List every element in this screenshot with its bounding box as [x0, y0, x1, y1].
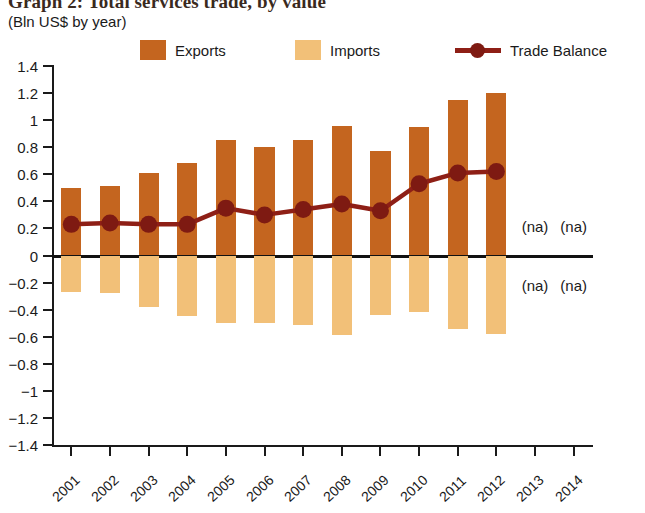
x-tick — [573, 445, 575, 456]
x-tick-label-2010: 2010 — [397, 472, 431, 505]
y-tick-label: 0.2 — [17, 220, 38, 237]
y-tick-label: 1 — [30, 112, 38, 129]
x-tick — [379, 445, 381, 456]
x-tick-label-2009: 2009 — [358, 472, 392, 505]
y-tick-label: −0.8 — [8, 355, 38, 372]
legend-label-imports: Imports — [330, 42, 380, 59]
na-label-2014-above-axis: (na) — [560, 218, 587, 235]
x-tick-label-2014: 2014 — [552, 472, 586, 505]
balance-point-2006 — [256, 206, 273, 223]
y-tick-label: 0 — [30, 247, 38, 264]
balance-point-2008 — [333, 196, 350, 213]
x-tick — [495, 445, 497, 456]
balance-point-2005 — [217, 200, 234, 217]
x-tick — [225, 445, 227, 456]
x-tick — [186, 445, 188, 456]
legend-swatch-imports — [295, 40, 321, 60]
x-tick — [70, 445, 72, 456]
x-tick-label-2012: 2012 — [474, 472, 508, 505]
balance-point-2004 — [179, 216, 196, 233]
x-tick — [109, 445, 111, 456]
y-tick-label: −0.6 — [8, 328, 38, 345]
legend-item-balance[interactable]: Trade Balance — [455, 38, 607, 62]
x-tick-label-2002: 2002 — [88, 472, 122, 505]
na-label-2013-above-axis: (na) — [522, 218, 549, 235]
legend-line-marker-icon — [455, 40, 501, 60]
legend-label-balance: Trade Balance — [510, 42, 607, 59]
balance-point-2007 — [295, 201, 312, 218]
x-tick-label-2001: 2001 — [49, 472, 83, 505]
y-tick-label: −1.2 — [8, 409, 38, 426]
x-tick-label-2007: 2007 — [281, 472, 315, 505]
balance-point-2002 — [101, 215, 118, 232]
balance-point-2003 — [140, 216, 157, 233]
y-tick-label: 0.6 — [17, 166, 38, 183]
balance-point-2009 — [372, 202, 389, 219]
x-tick-label-2013: 2013 — [513, 472, 547, 505]
chart-legend: ExportsImportsTrade Balance — [0, 38, 645, 62]
y-tick-label: 0.8 — [17, 139, 38, 156]
x-tick — [264, 445, 266, 456]
legend-label-exports: Exports — [175, 42, 226, 59]
plot-area: (na)(na)(na)(na) — [52, 66, 593, 445]
x-tick-label-2008: 2008 — [320, 472, 354, 505]
y-tick-label: 1.2 — [17, 85, 38, 102]
balance-point-2012 — [488, 163, 505, 180]
x-tick-label-2011: 2011 — [436, 472, 469, 504]
x-tick — [418, 445, 420, 456]
balance-point-2001 — [63, 216, 80, 233]
x-tick — [534, 445, 536, 456]
x-tick-label-2005: 2005 — [204, 472, 238, 505]
y-tick-label: −1 — [21, 382, 38, 399]
y-tick-label: −1.4 — [8, 437, 38, 454]
x-axis-line — [52, 445, 593, 447]
balance-point-2011 — [449, 164, 466, 181]
x-tick — [302, 445, 304, 456]
y-tick-label: −0.2 — [8, 274, 38, 291]
legend-item-imports[interactable]: Imports — [295, 38, 380, 62]
y-tick-label: 1.4 — [17, 58, 38, 75]
balance-point-2010 — [411, 175, 428, 192]
balance-polyline — [71, 172, 496, 225]
chart-container: Graph 2: Total services trade, by value … — [0, 0, 645, 513]
trade-balance-line — [52, 66, 593, 445]
y-tick-label: 0.4 — [17, 193, 38, 210]
na-label-2013-below-axis: (na) — [522, 276, 549, 293]
na-label-2014-below-axis: (na) — [560, 276, 587, 293]
legend-item-exports[interactable]: Exports — [140, 38, 226, 62]
chart-subtitle: (Bln US$ by year) — [8, 13, 126, 30]
x-tick — [457, 445, 459, 456]
legend-swatch-exports — [140, 40, 166, 60]
x-tick-label-2003: 2003 — [127, 472, 161, 505]
x-tick — [341, 445, 343, 456]
chart-title: Graph 2: Total services trade, by value — [8, 0, 326, 13]
x-tick-label-2006: 2006 — [243, 472, 277, 505]
x-tick — [148, 445, 150, 456]
x-tick-label-2004: 2004 — [165, 472, 199, 505]
y-tick-label: −0.4 — [8, 301, 38, 318]
